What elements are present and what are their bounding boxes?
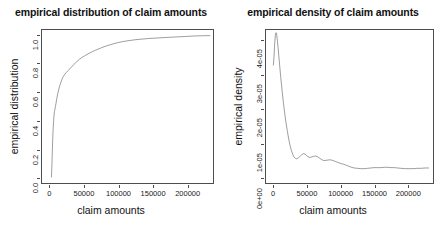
x-tick-label: 150000 (141, 189, 166, 198)
x-tick-label: 0 (47, 189, 51, 198)
x-tick-mark (273, 185, 274, 188)
y-tick-mark (37, 178, 40, 179)
y-tick-label: 2e-05 (255, 118, 264, 137)
ecdf-curve (51, 36, 210, 178)
x-axis-label-left: claim amounts (0, 204, 222, 216)
y-tick-label: 1.0 (31, 39, 40, 49)
y-tick-label: 3e-05 (255, 84, 264, 103)
x-tick-mark (375, 185, 376, 188)
plot-area-empirical-density (265, 29, 434, 184)
x-tick-mark (153, 185, 154, 188)
panel-empirical-density: empirical density of claim amounts 05000… (222, 0, 444, 233)
y-tick-mark (261, 109, 264, 110)
x-axis-label-right: claim amounts (222, 204, 444, 216)
x-tick-mark (49, 185, 50, 188)
y-tick-label: 0.4 (31, 126, 40, 136)
panel-title-left: empirical distribution of claim amounts (0, 6, 222, 18)
y-tick-mark (37, 35, 40, 36)
x-tick-label: 200000 (175, 189, 200, 198)
y-tick-label: 0.8 (31, 68, 40, 78)
x-tick-mark (408, 185, 409, 188)
x-tick-mark (119, 185, 120, 188)
y-tick-mark (37, 150, 40, 151)
y-tick-label: 0.2 (31, 154, 40, 164)
y-tick-mark (261, 40, 264, 41)
x-tick-label: 200000 (396, 189, 421, 198)
x-tick-label: 0 (271, 189, 275, 198)
x-tick-label: 150000 (362, 189, 387, 198)
panel-empirical-distribution: empirical distribution of claim amounts … (0, 0, 222, 233)
y-tick-mark (37, 92, 40, 93)
x-tick-label: 100000 (106, 189, 131, 198)
y-tick-label: 0.0 (31, 183, 40, 193)
x-tick-mark (188, 185, 189, 188)
y-axis-label-left: empirical distribution (8, 29, 20, 184)
y-tick-mark (261, 178, 264, 179)
x-tick-label: 50000 (296, 189, 317, 198)
y-tick-mark (37, 63, 40, 64)
x-tick-mark (307, 185, 308, 188)
density-curve (273, 33, 429, 169)
y-tick-mark (261, 144, 264, 145)
ecdf-curve-svg (42, 30, 213, 183)
y-tick-label: 0.6 (31, 97, 40, 107)
y-tick-label: 4e-05 (255, 49, 264, 68)
x-tick-mark (84, 185, 85, 188)
x-tick-label: 100000 (328, 189, 353, 198)
density-curve-svg (266, 30, 433, 183)
y-tick-label: 1e-05 (255, 153, 264, 172)
x-tick-mark (341, 185, 342, 188)
panel-title-right: empirical density of claim amounts (222, 6, 444, 18)
x-tick-label: 50000 (73, 189, 94, 198)
plot-area-empirical-distribution (41, 29, 214, 184)
y-axis-label-right: empirical density (232, 29, 244, 184)
y-tick-mark (261, 75, 264, 76)
figure-canvas: empirical distribution of claim amounts … (0, 0, 444, 233)
y-tick-mark (37, 121, 40, 122)
